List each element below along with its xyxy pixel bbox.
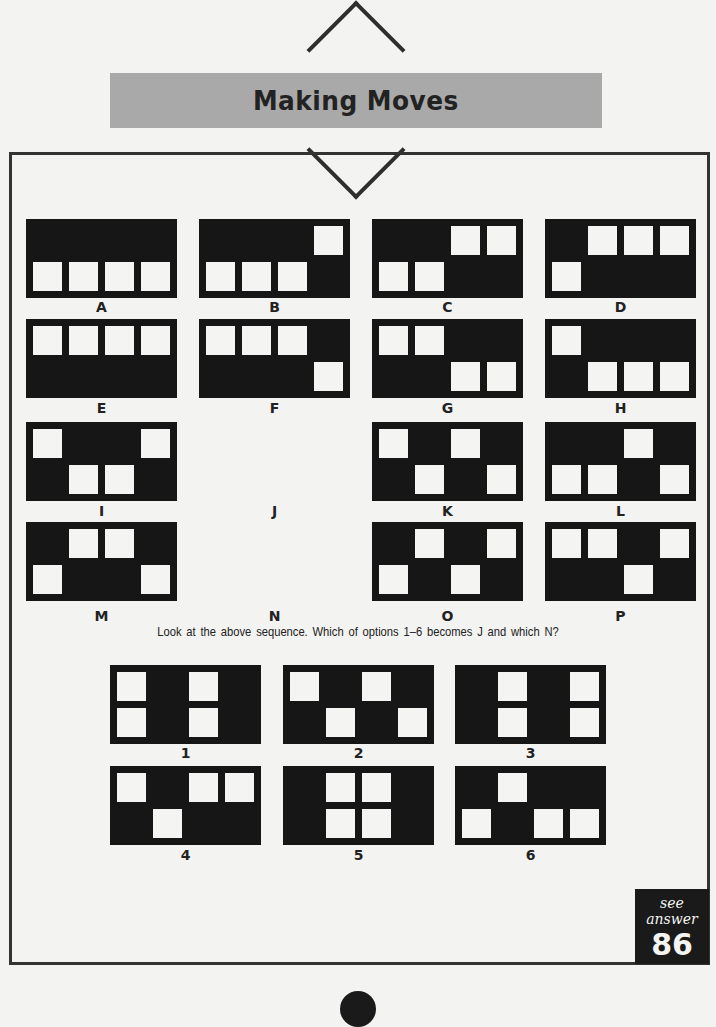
white-square [326,809,355,838]
option-5 [283,766,434,845]
title-banner: Making Moves [110,73,602,128]
white-square [33,262,62,291]
white-square [206,262,235,291]
white-square [379,429,408,458]
question-text: Look at the above sequence. Which of opt… [50,624,666,639]
panel-label: M [26,608,177,624]
white-square [462,809,491,838]
white-square [415,529,444,558]
white-square [189,708,218,737]
white-square [552,326,581,355]
white-square [314,226,343,255]
white-square [588,465,617,494]
white-square [552,262,581,291]
see-answer-box: see answer 86 [635,889,709,964]
white-square [314,362,343,391]
panel-label: F [199,400,350,416]
white-square [33,429,62,458]
panel-label: H [545,400,696,416]
panel-f [199,319,350,398]
option-3 [455,665,606,744]
white-square [487,362,516,391]
white-square [379,326,408,355]
panel-e [26,319,177,398]
option-label: 1 [110,745,261,761]
option-label: 4 [110,847,261,863]
white-square [660,226,689,255]
white-square [624,429,653,458]
option-1 [110,665,261,744]
panel-label: D [545,299,696,315]
panel-k [372,422,523,501]
white-square [451,565,480,594]
panel-p [545,522,696,601]
white-square [624,226,653,255]
white-square [498,672,527,701]
white-square [534,809,563,838]
white-square [105,529,134,558]
option-4 [110,766,261,845]
white-square [141,429,170,458]
white-square [660,362,689,391]
white-square [660,465,689,494]
white-square [498,773,527,802]
panel-g [372,319,523,398]
option-label: 5 [283,847,434,863]
white-square [242,262,271,291]
panel-label: N [199,608,350,624]
white-square [552,465,581,494]
page-title: Making Moves [253,85,459,116]
white-square [570,708,599,737]
white-square [290,672,319,701]
white-square [624,362,653,391]
option-2 [283,665,434,744]
white-square [451,362,480,391]
white-square [588,226,617,255]
white-square [242,326,271,355]
white-square [33,565,62,594]
panel-label: G [372,400,523,416]
white-square [117,672,146,701]
panel-m [26,522,177,601]
white-square [141,262,170,291]
white-square [278,326,307,355]
white-square [117,773,146,802]
option-label: 6 [455,847,606,863]
panel-label: E [26,400,177,416]
white-square [588,529,617,558]
white-square [206,326,235,355]
option-label: 3 [455,745,606,761]
white-square [570,672,599,701]
panel-i [26,422,177,501]
panel-h [545,319,696,398]
panel-a [26,219,177,298]
white-square [362,773,391,802]
answer-page-number: 86 [635,927,709,962]
white-square [570,809,599,838]
white-square [105,262,134,291]
white-square [451,429,480,458]
white-square [189,773,218,802]
panel-label: P [545,608,696,624]
panel-l [545,422,696,501]
white-square [552,529,581,558]
see-answer-label: see answer [635,895,709,927]
white-square [379,565,408,594]
white-square [278,262,307,291]
white-square [415,326,444,355]
white-square [105,465,134,494]
white-square [379,262,408,291]
white-square [326,773,355,802]
white-square [398,708,427,737]
white-square [69,326,98,355]
white-square [487,226,516,255]
white-square [624,565,653,594]
panel-o [372,522,523,601]
white-square [105,326,134,355]
white-square [362,672,391,701]
white-square [498,708,527,737]
white-square [588,362,617,391]
panel-label: K [372,503,523,519]
white-square [660,529,689,558]
white-square [69,529,98,558]
